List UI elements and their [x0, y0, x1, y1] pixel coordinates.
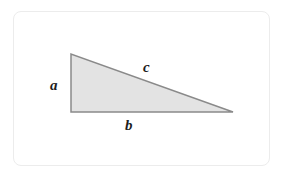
label-side-b: b [125, 118, 133, 133]
figure-root: a b c [0, 0, 284, 179]
label-side-c: c [143, 60, 150, 75]
right-triangle-diagram [0, 0, 284, 179]
label-side-a: a [50, 78, 58, 93]
triangle-shape [71, 54, 233, 112]
